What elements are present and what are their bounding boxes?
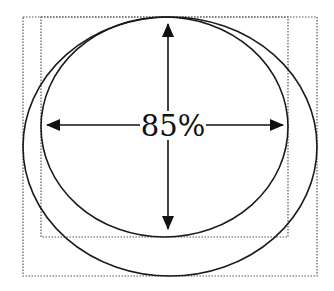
scaling-diagram: 85% xyxy=(0,0,334,291)
percentage-label: 85% xyxy=(141,109,205,143)
